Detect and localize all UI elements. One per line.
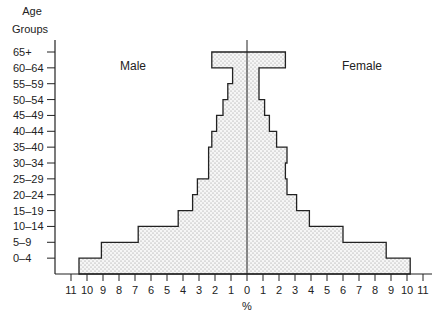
x-tick-label: 3	[292, 284, 298, 296]
pyramid-outline	[79, 52, 410, 274]
y-tick-label: 50–54	[13, 94, 44, 106]
y-tick-label: 45–49	[13, 109, 44, 121]
x-tick-label: 2	[212, 284, 218, 296]
x-tick-label: 9	[388, 284, 394, 296]
x-axis-unit-label: %	[242, 300, 252, 312]
y-tick-label: 5–9	[13, 236, 31, 248]
y-tick-label: 10–14	[13, 220, 44, 232]
x-tick-label: 7	[132, 284, 138, 296]
y-axis-title-line1: Age	[22, 5, 42, 17]
x-tick-label: 6	[340, 284, 346, 296]
y-axis-title-line2: Groups	[12, 23, 49, 35]
x-tick-label: 3	[196, 284, 202, 296]
x-axis-ticks: 111098765432101234567891011	[65, 274, 428, 296]
x-tick-label: 9	[100, 284, 106, 296]
x-tick-label: 11	[417, 284, 428, 296]
y-tick-label: 35–40	[13, 141, 44, 153]
male-label: Male	[120, 59, 146, 73]
y-tick-label: 15–19	[13, 205, 44, 217]
x-tick-label: 11	[65, 284, 76, 296]
female-label: Female	[342, 59, 382, 73]
y-tick-label: 25–29	[13, 173, 44, 185]
pyramid-bars	[79, 52, 410, 274]
x-tick-label: 1	[228, 284, 234, 296]
y-tick-label: 0–4	[13, 252, 31, 264]
population-pyramid-chart: Age Groups 0–45–910–1415–1920–2425–2930–…	[0, 0, 439, 326]
x-tick-label: 5	[164, 284, 170, 296]
x-tick-label: 5	[324, 284, 330, 296]
x-tick-label: 7	[356, 284, 362, 296]
x-tick-label: 8	[372, 284, 378, 296]
x-tick-label: 1	[260, 284, 266, 296]
y-tick-label: 20–24	[13, 189, 44, 201]
x-tick-label: 10	[81, 284, 93, 296]
x-tick-label: 0	[244, 284, 250, 296]
x-tick-label: 4	[180, 284, 186, 296]
x-tick-label: 10	[401, 284, 413, 296]
y-tick-label: 60–64	[13, 62, 44, 74]
y-axis-ticks: 0–45–910–1415–1920–2425–2930–3435–4040–4…	[13, 46, 55, 264]
y-tick-label: 40–44	[13, 125, 44, 137]
x-tick-label: 6	[148, 284, 154, 296]
y-tick-label: 55–59	[13, 78, 44, 90]
y-tick-label: 30–34	[13, 157, 44, 169]
x-tick-label: 4	[308, 284, 314, 296]
y-tick-label: 65+	[13, 46, 32, 58]
x-tick-label: 2	[276, 284, 282, 296]
x-tick-label: 8	[116, 284, 122, 296]
